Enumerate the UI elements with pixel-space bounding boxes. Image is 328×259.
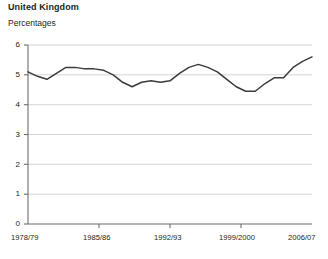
y-tick-label-2: 2 (4, 161, 20, 169)
x-tick-label-1999-2000: 1999/2000 (219, 234, 255, 242)
x-tick-label-1985-86: 1985/86 (83, 234, 110, 242)
data-series-line (28, 57, 312, 91)
x-tick-label-1978-79: 1978/79 (11, 234, 38, 242)
x-tick-label-1992-93: 1992/93 (154, 234, 181, 242)
line-chart-plot (0, 0, 328, 259)
y-tick-label-4: 4 (4, 101, 20, 109)
y-tick-label-3: 3 (4, 131, 20, 139)
x-tick-label-2006-07: 2006/07 (288, 234, 315, 242)
y-tick-label-5: 5 (4, 71, 20, 79)
y-tick-label-6: 6 (4, 41, 20, 49)
chart-figure: United Kingdom Percentages (0, 0, 328, 259)
y-tick-label-1: 1 (4, 190, 20, 198)
y-tick-label-0: 0 (4, 220, 20, 228)
x-axis-ticks (99, 224, 241, 228)
